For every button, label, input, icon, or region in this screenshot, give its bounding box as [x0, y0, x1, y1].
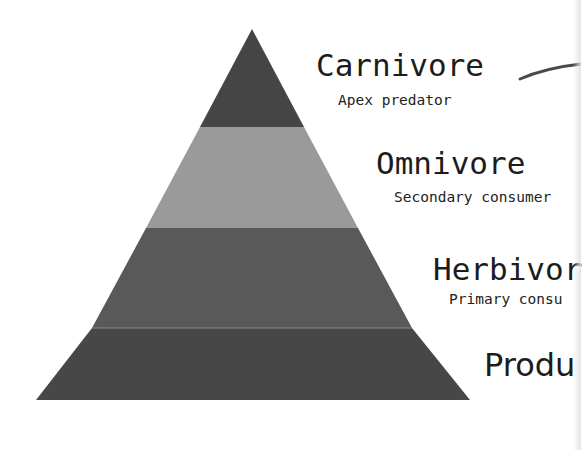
- producer-title: Produ: [484, 349, 575, 381]
- connector-curve: [520, 64, 581, 79]
- pyramid-level-omnivore: [146, 127, 358, 228]
- pyramid-level-carnivore: [200, 29, 304, 127]
- pyramid-level-herbivore: [92, 228, 412, 328]
- carnivore-subtitle: Apex predator: [338, 93, 452, 108]
- right-edge-shadow: [573, 0, 581, 450]
- omnivore-subtitle: Secondary consumer: [394, 190, 551, 205]
- herbivore-subtitle: Primary consu: [449, 292, 563, 307]
- pyramid-level-producer: [36, 328, 470, 400]
- carnivore-title: Carnivore: [316, 50, 484, 81]
- omnivore-title: Omnivore: [376, 148, 525, 179]
- herbivore-title: Herbivor: [433, 254, 582, 285]
